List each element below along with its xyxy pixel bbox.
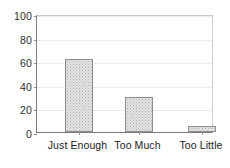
gridline bbox=[37, 40, 212, 41]
y-axis-tick-label: 20 bbox=[20, 104, 32, 116]
y-axis-tick-label: 60 bbox=[20, 57, 32, 69]
y-tick-mark bbox=[34, 63, 37, 64]
x-tick-mark bbox=[139, 132, 140, 135]
x-axis-tick-label: Too Much bbox=[114, 139, 160, 151]
y-tick-mark bbox=[34, 40, 37, 41]
y-tick-mark bbox=[34, 110, 37, 111]
bar-too-much bbox=[125, 97, 153, 132]
x-axis-tick-label: Just Enough bbox=[48, 139, 107, 151]
bar-chart: 020406080100 Just EnoughToo MuchToo Litt… bbox=[0, 0, 230, 168]
plot-area: 020406080100 bbox=[36, 15, 213, 133]
x-tick-mark bbox=[79, 132, 80, 135]
bar-just-enough bbox=[65, 59, 93, 132]
gridline bbox=[37, 16, 212, 17]
gridline bbox=[37, 87, 212, 88]
y-tick-mark bbox=[34, 87, 37, 88]
x-tick-mark bbox=[202, 132, 203, 135]
y-axis-tick-label: 40 bbox=[20, 81, 32, 93]
x-axis-tick-label: Too Little bbox=[179, 139, 222, 151]
y-axis-tick-label: 0 bbox=[26, 128, 32, 140]
gridline bbox=[37, 63, 212, 64]
y-axis-tick-label: 100 bbox=[14, 10, 32, 22]
y-axis-tick-label: 80 bbox=[20, 34, 32, 46]
y-tick-mark bbox=[34, 134, 37, 135]
y-tick-mark bbox=[34, 16, 37, 17]
